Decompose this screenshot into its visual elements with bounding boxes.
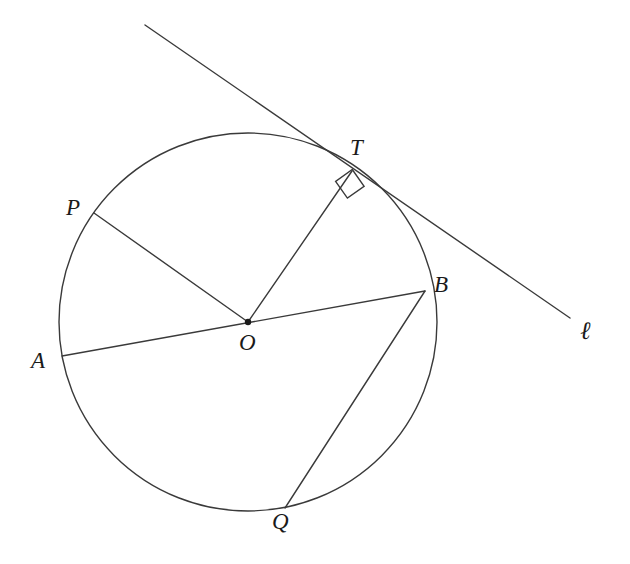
segment-chord-BQ [285,291,425,508]
segment-radius-OP [94,213,248,322]
geometry-canvas [0,0,630,564]
tangent-line-label-ell: ℓ [580,318,590,343]
tangent-line-ell [145,25,570,318]
point-label-T: T [350,136,363,159]
point-label-P: P [66,196,80,219]
point-label-Q: Q [272,510,289,533]
segment-radius-OT [248,171,352,322]
point-label-B: B [434,273,448,296]
geometry-figure: P A O B T Q ℓ [0,0,630,564]
point-label-O: O [239,331,256,354]
point-label-A: A [31,349,45,372]
center-point-dot-O [245,319,251,325]
